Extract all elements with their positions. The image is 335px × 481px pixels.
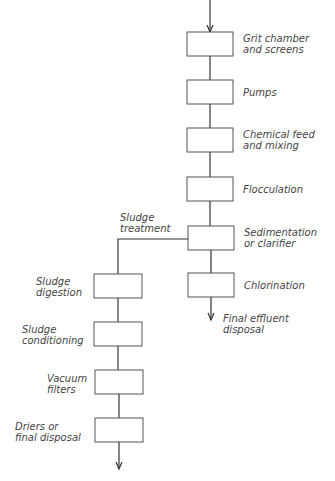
step-box-chlorination (188, 273, 234, 297)
output-label: Final effluent disposal (223, 313, 289, 335)
step-box-sedimentation (188, 226, 234, 250)
step-box-chemical (187, 128, 233, 152)
step-box-conditioning (94, 322, 142, 346)
step-label-digestion: Sludge digestion (36, 276, 82, 298)
step-box-grit (187, 32, 233, 56)
step-label-conditioning: Sludge conditioning (22, 324, 84, 346)
step-box-digestion (94, 274, 142, 298)
step-label-sedimentation: Sedimentation or clarifier (244, 227, 317, 249)
step-box-pumps (187, 80, 233, 104)
step-label-vacuum: Vacuum filters (47, 373, 87, 395)
step-box-flocculation (187, 177, 233, 201)
step-label-flocculation: Flocculation (243, 184, 303, 195)
step-label-grit: Grit chamber and screens (243, 33, 309, 55)
step-label-driers: Driers or final disposal (15, 421, 81, 443)
step-label-chemical: Chemical feed and mixing (243, 129, 315, 151)
sludge-branch-line (118, 239, 188, 274)
step-label-pumps: Pumps (243, 87, 277, 98)
step-label-chlorination: Chlorination (244, 280, 305, 291)
step-box-driers (95, 418, 143, 442)
branch-label: Sludge treatment (120, 212, 170, 234)
step-box-vacuum (95, 370, 143, 394)
